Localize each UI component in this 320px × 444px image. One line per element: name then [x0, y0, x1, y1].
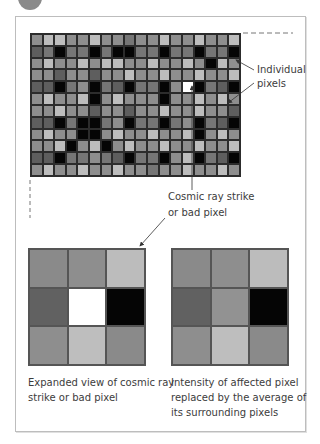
pixel	[43, 105, 55, 117]
pixel	[205, 105, 217, 117]
pixel	[135, 46, 147, 58]
pixel	[147, 129, 159, 141]
pixel	[66, 93, 78, 105]
pixel	[77, 140, 89, 152]
individual-pixels-label-line2: pixels	[257, 76, 286, 91]
pixel	[194, 117, 206, 129]
pixel	[170, 46, 182, 58]
pixel	[54, 129, 66, 141]
pixel	[182, 105, 194, 117]
pixel	[124, 34, 136, 46]
pixel	[101, 152, 113, 164]
pixel	[101, 46, 113, 58]
pixel	[228, 46, 240, 58]
pixel	[112, 129, 124, 141]
pixel	[182, 46, 194, 58]
pixel	[43, 140, 55, 152]
pixel	[205, 34, 217, 46]
pixel	[228, 81, 240, 93]
cosmic-ray-label-line2: or bad pixel	[168, 205, 227, 220]
pixel	[147, 81, 159, 93]
pixel	[89, 164, 101, 176]
pixel	[194, 81, 206, 93]
pixel	[31, 93, 43, 105]
pixel	[77, 93, 89, 105]
pixel	[217, 81, 229, 93]
pixel	[228, 129, 240, 141]
pixel	[170, 164, 182, 176]
pixel	[205, 117, 217, 129]
pixel	[205, 58, 217, 70]
pixel	[147, 164, 159, 176]
pixel	[77, 105, 89, 117]
pixel	[182, 58, 194, 70]
pixel	[112, 140, 124, 152]
pixel	[54, 164, 66, 176]
pixel	[124, 152, 136, 164]
pixel	[43, 34, 55, 46]
pixel	[124, 81, 136, 93]
pixel	[147, 152, 159, 164]
pixel	[112, 105, 124, 117]
pixel	[101, 105, 113, 117]
pixel	[135, 129, 147, 141]
pixel	[135, 69, 147, 81]
pixel	[159, 34, 171, 46]
pixel	[228, 69, 240, 81]
pixel	[77, 69, 89, 81]
pixel	[66, 81, 78, 93]
neighbor-pixel	[172, 326, 211, 365]
pixel	[205, 164, 217, 176]
pixel	[170, 117, 182, 129]
pixel	[54, 69, 66, 81]
pixel	[228, 34, 240, 46]
pixel	[124, 140, 136, 152]
pixel	[77, 81, 89, 93]
pixel	[101, 93, 113, 105]
pixel	[170, 93, 182, 105]
pixel	[77, 58, 89, 70]
pixel	[54, 140, 66, 152]
neighbor-pixel	[211, 326, 250, 365]
pixel	[77, 152, 89, 164]
pixel	[43, 46, 55, 58]
pixel	[182, 117, 194, 129]
expanded-view-bad-pixel	[28, 248, 146, 366]
pixel	[135, 105, 147, 117]
pixel	[228, 140, 240, 152]
pixel	[228, 58, 240, 70]
pixel	[170, 69, 182, 81]
bad-pixel	[182, 81, 194, 93]
pixel	[54, 58, 66, 70]
pixel	[43, 152, 55, 164]
pixel	[135, 58, 147, 70]
pixel	[194, 129, 206, 141]
pixel	[182, 152, 194, 164]
pixel	[77, 34, 89, 46]
pixel	[135, 34, 147, 46]
pixel	[194, 164, 206, 176]
pixel	[170, 81, 182, 93]
pixel	[182, 34, 194, 46]
pixel	[159, 69, 171, 81]
pixel	[217, 152, 229, 164]
pixel	[159, 164, 171, 176]
pixel	[217, 105, 229, 117]
pixel	[124, 93, 136, 105]
pixel	[31, 164, 43, 176]
neighbor-pixel	[29, 249, 68, 288]
pixel	[66, 164, 78, 176]
pixel	[101, 164, 113, 176]
pixel	[66, 46, 78, 58]
pixel	[228, 152, 240, 164]
pixel	[147, 69, 159, 81]
pixel	[101, 34, 113, 46]
pixel	[228, 105, 240, 117]
pixel	[147, 117, 159, 129]
pixel	[54, 46, 66, 58]
pixel	[54, 105, 66, 117]
pixel	[66, 117, 78, 129]
pixel	[31, 105, 43, 117]
pixel	[159, 93, 171, 105]
neighbor-pixel	[211, 249, 250, 288]
